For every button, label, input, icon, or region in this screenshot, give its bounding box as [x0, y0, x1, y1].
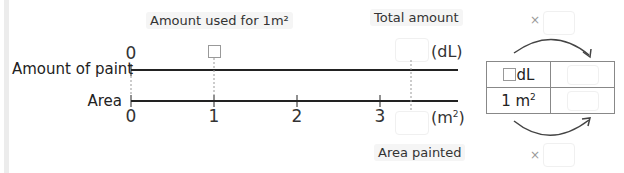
ratio-cell-area-total[interactable]: [551, 88, 615, 114]
times-symbol-top: ×: [530, 13, 540, 27]
ratio-cell-paint-per-m2: dL: [487, 62, 551, 88]
times-symbol-bottom: ×: [530, 148, 540, 162]
ratio-row-area: 1 m2: [487, 88, 615, 114]
multiplier-box-bottom[interactable]: [543, 143, 575, 167]
ratio-cell-area-unit: 1 m2: [487, 88, 551, 114]
ratio-cell-paint-total[interactable]: [551, 62, 615, 88]
ratio-table: dL 1 m2: [486, 61, 615, 114]
answer-box-table-per-m2[interactable]: [503, 68, 516, 81]
ratio-row-paint: dL: [487, 62, 615, 88]
multiplier-box-top[interactable]: [543, 11, 575, 35]
